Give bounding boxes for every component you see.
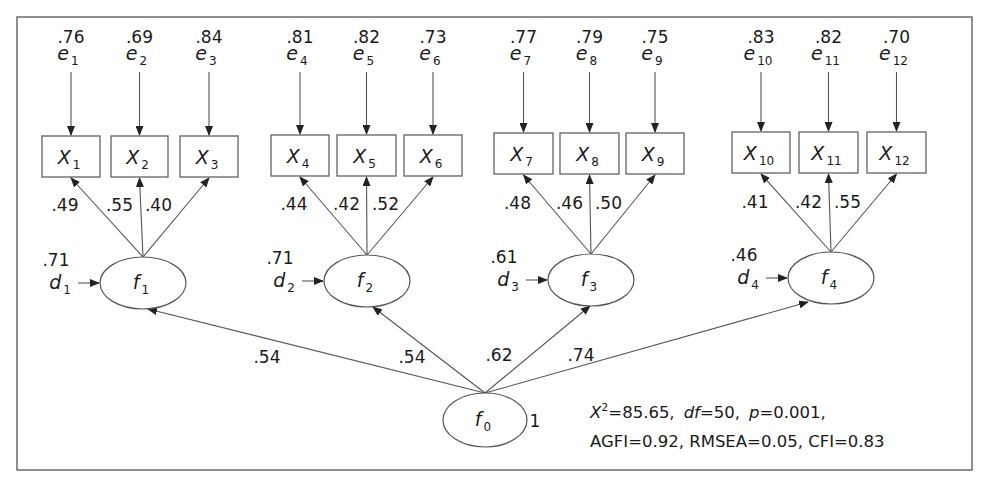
disturbance-variance: .46 [730,245,757,265]
loading-arrow [140,178,144,257]
structural-path-arrow [485,302,808,393]
disturbance-label: d4 [737,266,759,292]
factor-loading: .41 [741,192,768,212]
disturbance-label: d3 [497,268,519,294]
loading-arrow [143,178,209,257]
observed-variable-box [404,135,462,176]
loading-arrow [591,175,655,254]
loading-arrow [524,175,592,254]
factor-loading: .55 [834,192,861,212]
disturbance-variance: .61 [490,247,517,267]
factor-loading: .42 [333,194,360,214]
structural-path-arrow [373,307,485,393]
loading-arrow [300,177,367,255]
factor-loading: .42 [795,192,822,212]
sem-path-diagram: X1.76e1X2.69e2X3.84e3X4.81e4X5.82e5X6.73… [0,0,987,484]
fit-statistics-line-1: X2=85.65,df=50,p=0.001, [589,401,826,422]
factor-loading: .46 [556,193,583,213]
loading-arrow [829,174,832,252]
fit-statistics-line-2: AGFI=0.92, RMSEA=0.05, CFI=0.83 [590,432,885,451]
observed-variable-box [337,135,396,176]
factor-loading: .50 [595,193,622,213]
observed-variable-box [626,133,684,174]
disturbance-variance: .71 [266,248,293,268]
observed-variable-box [494,133,553,174]
general-factor-variance: 1 [530,411,541,431]
factor-loading: .55 [106,195,133,215]
observed-variable-box [111,136,168,177]
observed-variable-box [271,135,329,176]
observed-variable-box [42,136,100,177]
loading-arrow [590,175,592,254]
structural-path-arrow [148,309,485,393]
disturbance-label: d1 [49,271,71,297]
structural-path-coefficient: .54 [398,347,425,367]
factor-loading: .44 [280,194,307,214]
factor-loading: .40 [145,195,172,215]
structural-path-coefficient: .54 [253,347,280,367]
structural-path-coefficient: .62 [485,345,512,365]
loading-arrow [761,174,831,252]
factor-loading: .48 [504,193,531,213]
path-arrows [71,72,897,393]
disturbance-variance: .71 [42,250,69,270]
loading-arrow [367,177,433,255]
disturbance-label: d2 [273,269,295,295]
loading-arrow [71,178,143,257]
structural-path-coefficient: .74 [567,345,594,365]
observed-variable-box [560,133,619,174]
loading-arrow [831,174,897,252]
factor-loading: .49 [51,195,78,215]
diagram-labels: X1.76e1X2.69e2X3.84e3X4.81e4X5.82e5X6.73… [42,27,910,451]
diagram-nodes [42,132,926,447]
loading-arrow [367,177,368,255]
observed-variable-box [180,136,238,177]
factor-loading: .52 [372,194,399,214]
